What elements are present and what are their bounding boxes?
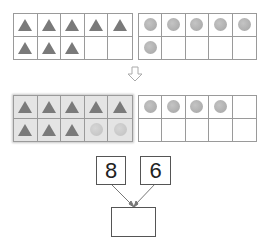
frame-cell: [233, 96, 256, 119]
frame-cell: [61, 96, 85, 119]
triangle-icon: [89, 101, 103, 113]
down-arrow-icon: [128, 67, 142, 81]
frame-cell: [85, 119, 109, 142]
bottom-left-ten-frame: [13, 95, 133, 142]
bond-arrows: [111, 184, 155, 207]
frame-cell: [61, 119, 85, 142]
triangle-icon: [18, 124, 32, 136]
left-bond-line: [111, 184, 132, 205]
frame-cell: [162, 96, 185, 119]
circle-icon: [214, 100, 227, 113]
circle-icon: [167, 100, 180, 113]
triangle-icon: [113, 101, 127, 113]
frame-cell: [139, 119, 162, 142]
circle-icon: [190, 100, 203, 113]
frame-cell: [233, 119, 256, 142]
circle-icon: [144, 100, 157, 113]
frame-cell: [162, 119, 185, 142]
triangle-icon: [18, 101, 32, 113]
circle-icon: [114, 123, 127, 136]
frame-cell: [108, 119, 132, 142]
frame-cell: [85, 96, 109, 119]
bond-left-number: 8: [96, 156, 126, 185]
triangle-icon: [65, 101, 79, 113]
frame-cell: [14, 119, 38, 142]
circle-icon: [90, 123, 103, 136]
triangle-icon: [65, 124, 79, 136]
triangle-icon: [42, 101, 56, 113]
frame-cell: [209, 119, 232, 142]
frame-cell: [186, 96, 209, 119]
frame-cell: [38, 96, 62, 119]
bond-result-box[interactable]: [111, 207, 156, 237]
right-bond-line: [135, 184, 155, 205]
bond-right-number: 6: [140, 156, 171, 185]
frame-cell: [209, 96, 232, 119]
triangle-icon: [42, 124, 56, 136]
bottom-right-ten-frame: [138, 95, 257, 142]
frame-cell: [186, 119, 209, 142]
frame-cell: [108, 96, 132, 119]
frame-cell: [139, 96, 162, 119]
frame-cell: [14, 96, 38, 119]
frame-cell: [38, 119, 62, 142]
